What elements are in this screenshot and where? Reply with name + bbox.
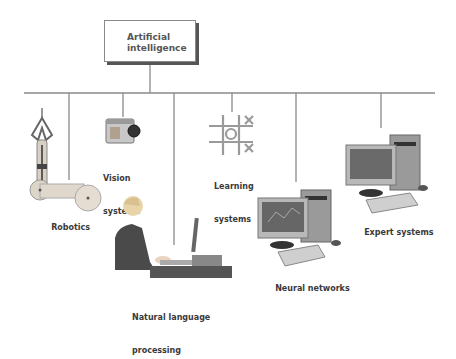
expert-systems-label: Expert systems	[353, 216, 434, 249]
